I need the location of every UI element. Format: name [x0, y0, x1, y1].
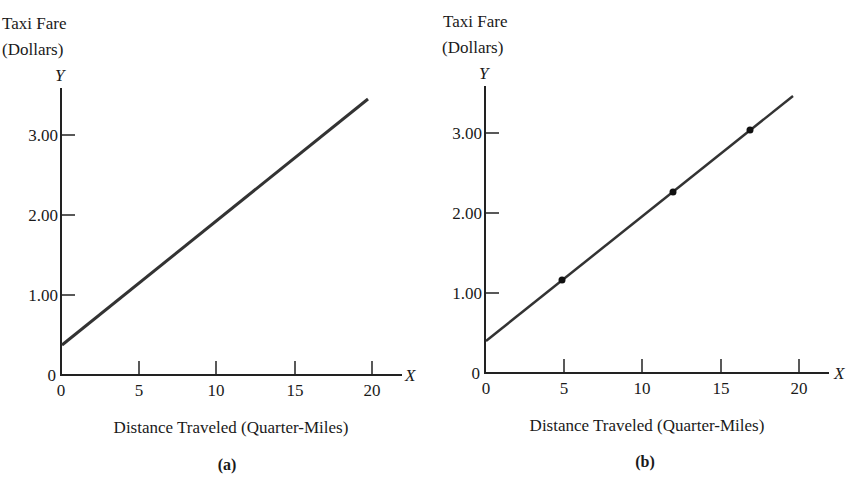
y-axis-symbol: Y: [55, 66, 66, 85]
fare-line: [62, 99, 368, 345]
x-tick-label: 20: [364, 381, 381, 400]
panel-a: Taxi Fare (Dollars) Y X 3.00 2.00 1.00 0…: [2, 14, 416, 474]
fare-line: [486, 96, 793, 341]
y-label-line1: Taxi Fare: [2, 14, 66, 33]
x-axis-label: Distance Traveled (Quarter-Miles): [114, 418, 349, 437]
x-axis-symbol: X: [404, 366, 416, 385]
x-tick-label: 5: [135, 381, 144, 400]
panel-b: Taxi Fare (Dollars) Y X 3.00 2.00 1.00 0…: [442, 12, 845, 471]
y-tick-label: 1.00: [28, 286, 58, 305]
y-tick-label: 0: [472, 364, 481, 383]
x-tick-label: 15: [713, 379, 730, 398]
y-label-line2: (Dollars): [2, 40, 63, 59]
panel-caption: (a): [218, 456, 237, 474]
y-tick-label: 3.00: [452, 124, 482, 143]
y-tick-label: 2.00: [452, 204, 482, 223]
y-tick-label: 2.00: [28, 206, 58, 225]
x-tick-label: 10: [208, 381, 225, 400]
x-tick-label: 0: [482, 379, 491, 398]
y-tick-label: 1.00: [452, 284, 482, 303]
x-tick-label: 10: [634, 379, 651, 398]
data-point: [670, 189, 677, 196]
x-axis-symbol: X: [833, 364, 845, 383]
x-tick-label: 5: [560, 379, 569, 398]
y-label-line1: Taxi Fare: [443, 12, 507, 31]
x-axis-label: Distance Traveled (Quarter-Miles): [530, 416, 765, 435]
x-tick-label: 0: [57, 381, 66, 400]
panel-caption: (b): [635, 453, 655, 471]
y-tick-label: 3.00: [28, 126, 58, 145]
x-tick-label: 15: [287, 381, 304, 400]
y-label-line2: (Dollars): [442, 38, 503, 57]
data-point: [559, 277, 566, 284]
figure: Taxi Fare (Dollars) Y X 3.00 2.00 1.00 0…: [0, 0, 860, 489]
x-tick-label: 20: [791, 379, 808, 398]
data-point: [747, 127, 754, 134]
y-axis-symbol: Y: [479, 64, 490, 83]
y-tick-label: 0: [48, 366, 57, 385]
